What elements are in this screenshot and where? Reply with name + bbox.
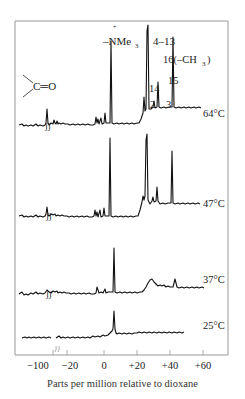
peak-label-4-13: 4–13	[153, 35, 176, 47]
tick-label: +60	[195, 360, 211, 371]
x-ticks	[53, 350, 203, 355]
trace-47c	[19, 134, 200, 217]
peak-label-15: 15	[168, 75, 179, 86]
peak-label-3: 3	[166, 99, 171, 110]
tick-label: −100	[27, 360, 49, 371]
plot-frame	[15, 21, 228, 355]
carbonyl-label: C═O	[33, 80, 56, 92]
trace-break-glyph: ʃʃ	[45, 211, 53, 221]
temp-label-37c: 37°C	[203, 274, 225, 285]
tick-label: 0	[101, 360, 106, 371]
nme3-annotation: + –NMe 3	[102, 24, 139, 50]
nme3-subscript: 3	[135, 42, 139, 50]
tick-label: +20	[129, 360, 145, 371]
tick-label: −20	[62, 360, 78, 371]
nme3-label: –NMe	[102, 35, 131, 47]
trace-25c-left	[22, 337, 51, 338]
temp-label-47c: 47°C	[203, 198, 225, 209]
temp-label-64c: 64°C	[203, 108, 225, 119]
tick-label: +40	[162, 360, 178, 371]
trace-break-glyph: ʃʃ	[44, 121, 52, 131]
carbonyl-annotation: C═O	[23, 75, 56, 97]
ch3-close-paren: )	[207, 54, 211, 66]
x-axis-title: Parts per million relative to dioxane	[0, 378, 245, 389]
axis-break-marker	[55, 346, 59, 352]
nmr-spectrum-chart: −100 −20 0 +20 +40 +60 ʃʃ ʃʃ ʃʃ C═O + –N…	[0, 0, 245, 399]
trace-25c-right	[56, 311, 184, 338]
ch3-annotation: 16(–CH 3 )	[163, 54, 211, 68]
peak-label-16: 16(–CH	[163, 54, 197, 66]
temp-label-25c: 25°C	[203, 320, 225, 331]
nme3-plus: +	[113, 24, 117, 30]
peak-label-2: 2	[150, 99, 155, 110]
trace-break-glyph: ʃʃ	[45, 289, 53, 299]
ch3-subscript: 3	[202, 60, 206, 68]
trace-37c	[19, 248, 204, 295]
peak-label-14: 14	[149, 83, 160, 94]
